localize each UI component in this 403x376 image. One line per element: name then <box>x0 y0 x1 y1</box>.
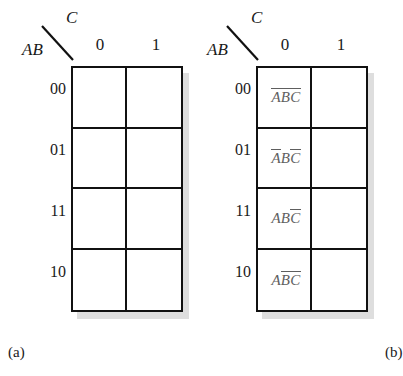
kmap-cell: ABC <box>258 189 312 250</box>
kmap-cell <box>73 129 127 190</box>
cell-minterm: ABC <box>267 271 300 289</box>
row-header-11-a: 11 <box>18 203 66 219</box>
kmap-cell <box>312 189 366 250</box>
row-header-01-a: 01 <box>18 142 66 158</box>
kmap-cell: ABC <box>258 250 312 311</box>
figure-caption-b: (b) <box>385 345 403 360</box>
row-header-01-b: 01 <box>203 142 251 158</box>
kmap-grid-b: ABC ABC ABC ABC <box>256 66 368 312</box>
row-header-11-b: 11 <box>203 203 251 219</box>
kmap-cell <box>73 250 127 311</box>
kmap-cell: ABC <box>258 68 312 129</box>
kmap-cell <box>127 68 181 129</box>
row-variable-label-b: AB <box>207 41 228 58</box>
kmap-grid-a <box>71 66 183 312</box>
column-header-0-a: 0 <box>72 36 128 53</box>
karnaugh-map-a: C AB 0 1 00 01 11 10 (a) <box>0 0 185 376</box>
row-header-00-b: 00 <box>203 81 251 97</box>
kmap-cell: ABC <box>258 129 312 190</box>
row-header-10-a: 10 <box>18 264 66 280</box>
kmap-cell <box>73 68 127 129</box>
karnaugh-map-b: C AB 0 1 00 01 11 10 ABC ABC ABC ABC (b) <box>185 0 370 376</box>
column-header-0-b: 0 <box>257 36 313 53</box>
cell-minterm: ABC <box>267 209 300 227</box>
row-variable-label-a: AB <box>22 41 43 58</box>
kmap-cell <box>312 129 366 190</box>
column-header-1-b: 1 <box>313 36 369 53</box>
figure-caption-a: (a) <box>8 345 25 360</box>
column-variable-label-a: C <box>66 9 77 26</box>
kmap-cell <box>312 250 366 311</box>
kmap-cell <box>312 68 366 129</box>
kmap-cell <box>127 129 181 190</box>
cell-minterm: ABC <box>267 88 300 106</box>
kmap-cell <box>127 250 181 311</box>
cell-minterm: ABC <box>267 149 300 167</box>
kmap-cell <box>127 189 181 250</box>
column-variable-label-b: C <box>251 9 262 26</box>
row-header-00-a: 00 <box>18 81 66 97</box>
row-header-10-b: 10 <box>203 264 251 280</box>
kmap-cell <box>73 189 127 250</box>
column-header-1-a: 1 <box>128 36 184 53</box>
